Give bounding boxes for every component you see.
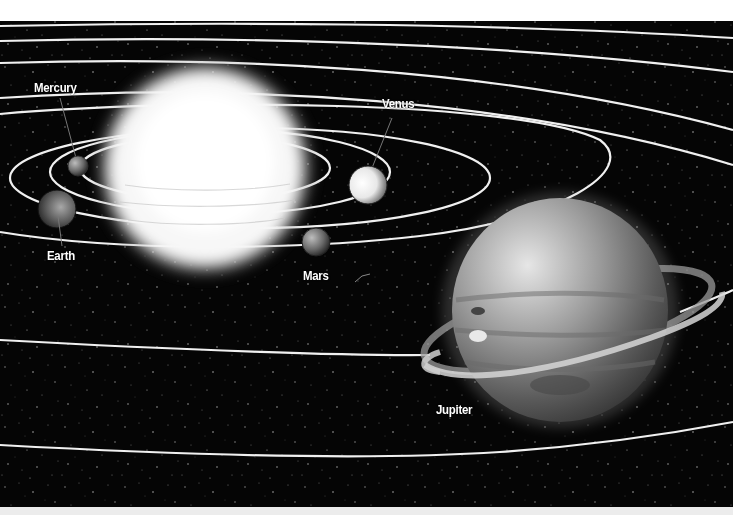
sun [93, 56, 317, 280]
label-earth: Earth [47, 248, 75, 263]
solar-system-diagram [0, 0, 733, 515]
label-mercury: Mercury [34, 80, 77, 95]
label-venus: Venus [382, 96, 414, 111]
bottom-margin [0, 506, 733, 515]
label-mars: Mars [303, 268, 329, 283]
top-margin [0, 0, 733, 22]
label-jupiter: Jupiter [436, 402, 472, 417]
